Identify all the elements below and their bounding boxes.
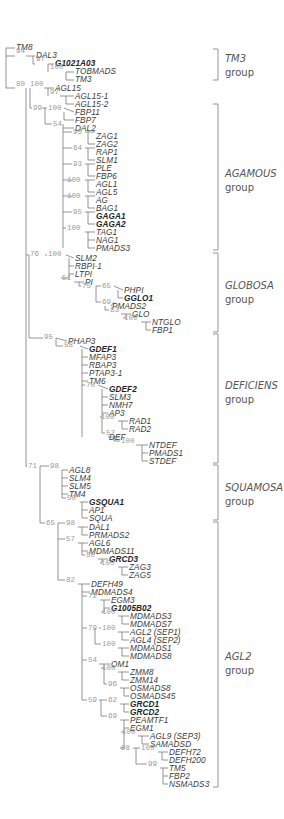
- group-label: TM3group: [225, 52, 254, 80]
- group-name: SQUAMOSA: [225, 481, 283, 495]
- bootstrap-value: 97: [50, 88, 59, 97]
- bootstrap-value: 93: [73, 160, 82, 169]
- taxon-label: NSMADS3: [169, 780, 209, 789]
- taxon-label: TM3: [75, 75, 92, 84]
- bootstrap-value: 100: [102, 640, 116, 649]
- bootstrap-value: 50: [67, 494, 76, 503]
- bootstrap-value: 100: [50, 63, 64, 72]
- bootstrap-value: 57: [66, 535, 75, 544]
- group-label: SQUAMOSAgroup: [225, 481, 283, 509]
- bootstrap-value: 75: [82, 282, 91, 291]
- group-name: GLOBOSA: [225, 279, 274, 293]
- bootstrap-value: 79: [88, 624, 97, 633]
- taxon-label: PMADS3: [96, 244, 130, 253]
- bootstrap-value: 95: [73, 208, 82, 217]
- bootstrap-value: 98: [50, 462, 59, 471]
- taxon-label: STDEF: [149, 457, 176, 466]
- bootstrap-value: 96: [108, 680, 117, 689]
- group-label: AGL2group: [225, 650, 254, 678]
- bootstrap-value: 100: [67, 176, 81, 185]
- bootstrap-value: 65: [46, 519, 55, 528]
- taxon-label: ZAG5: [129, 571, 151, 580]
- group-word: group: [225, 495, 283, 509]
- bootstrap-value: 52: [106, 429, 115, 438]
- bootstrap-value: 83: [110, 306, 119, 315]
- bootstrap-value: 100: [67, 224, 81, 233]
- bootstrap-value: 80: [16, 80, 25, 89]
- bootstrap-value: 100: [101, 413, 115, 422]
- bootstrap-value: 51: [62, 274, 71, 283]
- group-label: DEFICIENSgroup: [225, 379, 278, 407]
- bootstrap-value: 58: [64, 341, 73, 350]
- bootstrap-value: 98: [66, 519, 75, 528]
- taxon-label: RAD2: [129, 425, 151, 434]
- bootstrap-value: 99: [33, 104, 42, 113]
- group-word: group: [225, 66, 254, 80]
- bootstrap-value: 50: [86, 551, 95, 560]
- bootstrap-value: 71: [28, 462, 37, 471]
- bootstrap-value: 54: [53, 120, 62, 129]
- bootstrap-value: 64: [73, 144, 82, 153]
- bootstrap-value: 100: [48, 250, 62, 259]
- group-name: AGL2: [225, 650, 254, 664]
- taxon-label: MDMADS8: [130, 652, 172, 661]
- bootstrap-value: 54: [88, 656, 97, 665]
- bootstrap-value: 72: [88, 592, 97, 601]
- bootstrap-value: 76: [30, 250, 39, 259]
- taxon-label: FBP1: [152, 326, 173, 335]
- bootstrap-value: 69: [108, 712, 117, 721]
- bootstrap-value: 70: [86, 381, 95, 390]
- bootstrap-value: 99: [148, 760, 157, 769]
- bootstrap-value: 95: [73, 128, 82, 137]
- bootstrap-value: 59: [88, 696, 97, 705]
- bootstrap-value: 100: [102, 664, 116, 673]
- bootstrap-value: 100: [48, 104, 62, 113]
- group-word: group: [225, 293, 274, 307]
- bootstrap-value: 100: [102, 624, 116, 633]
- bootstrap-value: 62: [108, 696, 117, 705]
- taxon-label: SQUA: [89, 514, 113, 523]
- bootstrap-value: 100: [141, 744, 155, 753]
- group-label: AGAMOUSgroup: [225, 167, 277, 195]
- group-word: group: [225, 664, 254, 678]
- bootstrap-value: 98: [121, 744, 130, 753]
- bootstrap-value: 100: [124, 314, 138, 323]
- bootstrap-value: 82: [66, 576, 75, 585]
- group-label: GLOBOSAgroup: [225, 279, 274, 307]
- phylogenetic-tree: TM8DAL3G1021A03TOBMADSTM3AGL15AGL15-1AGL…: [0, 0, 284, 819]
- group-word: group: [225, 181, 277, 195]
- bootstrap-value: 65: [102, 282, 111, 291]
- bootstrap-value: 94: [16, 47, 25, 56]
- bootstrap-value: 100: [30, 80, 44, 89]
- group-name: AGAMOUS: [225, 167, 277, 181]
- bootstrap-value: 100: [67, 192, 81, 201]
- bootstrap-value: 100: [102, 608, 116, 617]
- bootstrap-value: 100: [101, 559, 115, 568]
- bootstrap-value: 97: [36, 55, 45, 64]
- group-name: TM3: [225, 52, 254, 66]
- bootstrap-value: 100: [122, 728, 136, 737]
- bootstrap-value: 100: [121, 437, 135, 446]
- group-name: DEFICIENS: [225, 379, 278, 393]
- group-word: group: [225, 393, 278, 407]
- bootstrap-value: 95: [44, 333, 53, 342]
